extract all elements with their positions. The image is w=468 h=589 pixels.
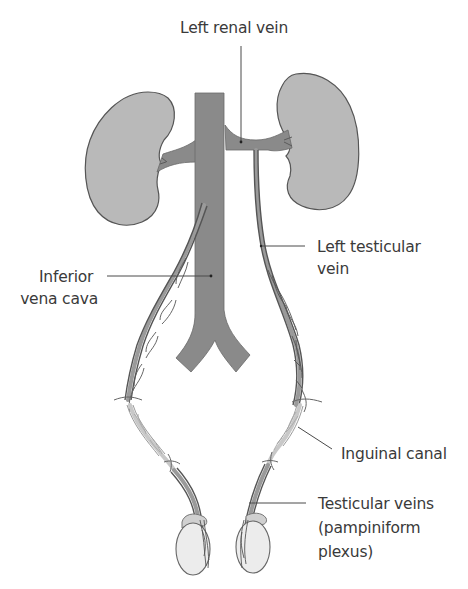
label-testicular-veins-line1: Testicular veins	[317, 495, 434, 513]
right-renal-vein	[157, 140, 196, 172]
testicular-venous-drainage-diagram: Left renal vein Left testicular vein Inf…	[0, 0, 468, 589]
label-inguinal-canal: Inguinal canal	[341, 445, 447, 463]
label-left-testicular-vein-line1: Left testicular	[317, 238, 422, 256]
label-inferior-vena-cava-line1: Inferior	[39, 268, 94, 286]
leader-dot-left-testicular-vein	[260, 245, 262, 247]
label-testicular-veins: Testicular veins (pampiniform plexus)	[317, 495, 439, 561]
label-inferior-vena-cava-line2: vena cava	[20, 290, 98, 308]
leader-dot-inferior-vena-cava	[210, 275, 213, 278]
label-left-testicular-vein-line2: vein	[317, 260, 349, 278]
leader-inguinal-canal	[298, 427, 332, 449]
label-left-testicular-vein: Left testicular vein	[317, 238, 425, 278]
inferior-vena-cava	[176, 93, 250, 372]
label-testicular-veins-line2: (pampiniform	[318, 519, 421, 537]
label-inferior-vena-cava: Inferior vena cava	[20, 268, 98, 308]
label-testicular-veins-line3: plexus)	[318, 543, 373, 561]
right-upper-plexus	[132, 258, 188, 392]
leader-dot-left-renal-vein	[240, 141, 243, 144]
label-left-renal-vein: Left renal vein	[180, 19, 288, 37]
right-kidney	[85, 92, 174, 225]
